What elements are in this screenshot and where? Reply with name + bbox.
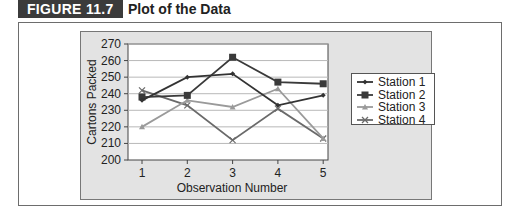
x-tick-label: 4 [275, 166, 282, 180]
legend-item: Station 1 [356, 76, 434, 89]
y-tick-label: 230 [101, 103, 121, 117]
y-tick-label: 270 [101, 37, 121, 51]
x-tick-label: 2 [184, 166, 191, 180]
y-tick-label: 240 [101, 87, 121, 101]
y-tick-label: 200 [101, 153, 121, 167]
y-axis-label: Cartons Packed [85, 59, 99, 144]
x-tick-label: 1 [139, 166, 146, 180]
line-chart: 20021022023024025026027012345Observation… [0, 0, 517, 221]
y-tick-label: 220 [101, 120, 121, 134]
diamond-marker-icon [356, 77, 374, 87]
legend-item: Station 2 [356, 89, 434, 102]
y-tick-label: 210 [101, 136, 121, 150]
legend-item: Station 3 [356, 101, 434, 114]
y-tick-label: 260 [101, 54, 121, 68]
x-tick-label: 3 [229, 166, 236, 180]
y-tick-label: 250 [101, 70, 121, 84]
legend-label: Station 4 [378, 113, 425, 127]
x-marker-icon [356, 115, 374, 125]
x-tick-label: 5 [320, 166, 327, 180]
triangle-marker-icon [356, 102, 374, 112]
square-marker-icon [356, 90, 374, 100]
x-axis-label: Observation Number [177, 181, 288, 195]
chart-legend: Station 1Station 2Station 3Station 4 [351, 73, 435, 125]
legend-item: Station 4 [356, 114, 434, 127]
